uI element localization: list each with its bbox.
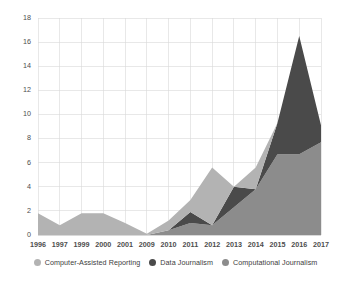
- x-tick-label: 2013: [226, 240, 242, 249]
- legend-swatch-icon: [222, 259, 229, 266]
- y-tick-label: 12: [23, 85, 31, 94]
- x-tick-label: 2015: [269, 240, 285, 249]
- legend-item[interactable]: Data Journalism: [149, 258, 213, 267]
- x-tick-label: 2001: [117, 240, 133, 249]
- legend-label: Computer-Assisted Reporting: [45, 258, 141, 267]
- y-tick-label: 18: [23, 13, 31, 22]
- legend-swatch-icon: [149, 259, 156, 266]
- x-tick-label: 2017: [313, 240, 329, 249]
- chart-legend: Computer-Assisted ReportingData Journali…: [0, 258, 351, 267]
- x-tick-label: 1997: [52, 240, 68, 249]
- x-tick-label: 2009: [139, 240, 155, 249]
- x-tick-label: 1999: [74, 240, 90, 249]
- legend-label: Computational Journalism: [233, 258, 317, 267]
- y-axis-tick-labels: 181614121086420: [23, 13, 31, 239]
- y-tick-label: 2: [27, 206, 31, 215]
- area-chart: 181614121086420 199619971999200020012009…: [0, 0, 351, 287]
- y-tick-label: 8: [27, 133, 31, 142]
- x-tick-label: 1996: [30, 240, 46, 249]
- legend-item[interactable]: Computer-Assisted Reporting: [34, 258, 141, 267]
- x-tick-label: 2014: [248, 240, 264, 249]
- x-axis-tick-labels: 1996199719992000200120092010201120122013…: [30, 240, 329, 249]
- y-tick-label: 14: [23, 61, 31, 70]
- x-tick-label: 2000: [95, 240, 111, 249]
- legend-label: Data Journalism: [160, 258, 213, 267]
- plot-area: 181614121086420 199619971999200020012009…: [0, 0, 351, 255]
- y-tick-label: 16: [23, 37, 31, 46]
- x-tick-label: 2012: [204, 240, 220, 249]
- legend-swatch-icon: [34, 259, 41, 266]
- y-tick-label: 4: [27, 182, 31, 191]
- x-tick-label: 2010: [161, 240, 177, 249]
- legend-item[interactable]: Computational Journalism: [222, 258, 317, 267]
- y-tick-label: 6: [27, 158, 31, 167]
- y-tick-label: 10: [23, 109, 31, 118]
- x-tick-label: 2016: [291, 240, 307, 249]
- area-series-group: [38, 36, 321, 235]
- chart-svg: 181614121086420 199619971999200020012009…: [0, 0, 351, 255]
- x-tick-label: 2011: [183, 240, 199, 249]
- y-tick-label: 0: [27, 230, 31, 239]
